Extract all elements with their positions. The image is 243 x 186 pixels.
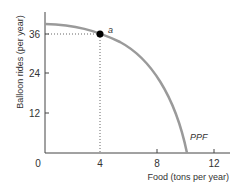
y-tick-36: 36 <box>29 29 41 40</box>
ppf-label: PPF <box>190 132 208 142</box>
y-tick-24: 24 <box>29 68 41 79</box>
x-tick-12: 12 <box>208 158 220 169</box>
point-a <box>97 31 104 38</box>
x-axis-title: Food (tons per year) <box>147 172 229 182</box>
y-axis-title: Balloon rides (per year) <box>15 15 25 109</box>
y-tick-12: 12 <box>29 108 41 119</box>
x-tick-4: 4 <box>97 158 103 169</box>
point-a-label: a <box>108 25 113 35</box>
ppf-curve <box>45 24 187 153</box>
x-tick-0: 0 <box>35 158 41 169</box>
x-tick-8: 8 <box>154 158 160 169</box>
ppf-chart: a PPF 36 24 12 0 4 8 12 Food (tons per y… <box>0 0 243 186</box>
